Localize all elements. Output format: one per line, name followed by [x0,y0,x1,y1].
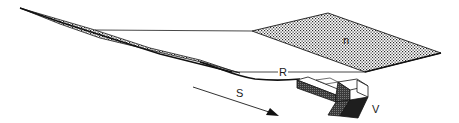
diagram-canvas: n R S V [0,0,459,123]
arrow-label: S [236,87,243,99]
chord-label: R [279,66,287,78]
v-block [297,77,368,118]
top-edge-line [95,30,252,31]
block-label: V [372,103,380,115]
swept-wedge [20,8,240,73]
plane-label: n [343,34,349,46]
